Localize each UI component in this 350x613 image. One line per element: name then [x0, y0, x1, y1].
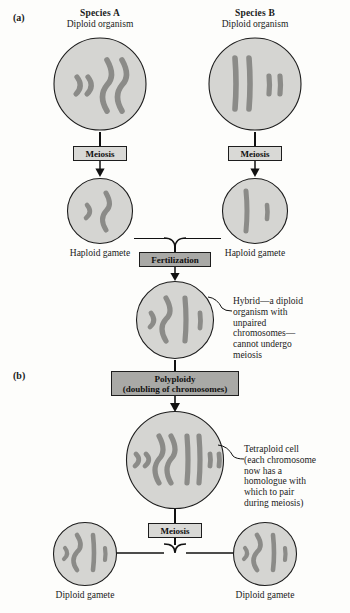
tetraploid-annotation-line-4: homologue with: [244, 476, 350, 487]
haploid-gamete-b-cell: [221, 177, 289, 245]
diploid-gamete-left-caption: Diploid gamete: [35, 590, 135, 601]
haploid-gamete-a-caption: Haploid gamete: [50, 248, 150, 259]
diploid-gamete-right-caption: Diploid gamete: [215, 590, 315, 601]
arrow-meiosis-b-down: [247, 161, 263, 177]
polyploidy-box: Polyploidy (doubling of chromosomes): [111, 371, 239, 396]
cell-membrane: [223, 179, 288, 244]
diploid-gamete-left-cell: [52, 521, 118, 587]
species-b-title: Species B: [192, 8, 318, 19]
cell-membrane: [209, 38, 301, 130]
connector-tetraploid-to-meiosis: [174, 509, 175, 523]
connector-species-b-to-meiosis: [254, 132, 255, 146]
species-b-subtitle: Diploid organism: [192, 19, 318, 30]
connector-gamete-b-to-fertilization: [181, 238, 221, 239]
hybrid-annotation-line-1: Hybrid—a diploid: [233, 296, 345, 307]
tetraploid-annotation-line-2: (each chromosome: [244, 455, 350, 466]
tetraploid-cell: [125, 410, 225, 510]
tetraploid-annotation-line-6: during meiosis): [244, 498, 350, 509]
hybrid-annotation-line-4: chromosomes—: [233, 328, 345, 339]
species-a-heading: Species A Diploid organism: [37, 8, 163, 30]
species-a-subtitle: Diploid organism: [37, 19, 163, 30]
diploid-gamete-right-cell: [232, 521, 298, 587]
connector-species-a-to-meiosis: [99, 132, 100, 146]
panel-letter-b: (b): [13, 370, 25, 381]
tetraploid-annotation: Tetraploid cell (each chromosome now has…: [244, 444, 350, 509]
hybrid-annotation: Hybrid—a diploid organism with unpaired …: [233, 296, 345, 361]
hybrid-annotation-line-6: meiosis: [233, 350, 345, 361]
species-a-title: Species A: [37, 8, 163, 19]
arrow-fertilization-down: [167, 267, 183, 281]
figure-canvas: (a) (b) Species A Diploid organism Speci…: [0, 0, 350, 613]
meiosis-box-a: Meiosis: [73, 146, 127, 161]
arrow-meiosis-a-down: [92, 161, 108, 177]
hybrid-annotation-line-5: cannot undergo: [233, 339, 345, 350]
haploid-gamete-a-cell: [66, 177, 134, 245]
leader-line-hybrid: [208, 296, 232, 312]
tetraploid-annotation-line-5: which to pair: [244, 487, 350, 498]
meiosis-box-final: Meiosis: [148, 523, 202, 538]
connector-hybrid-to-polyploidy: [174, 360, 175, 371]
hybrid-annotation-line-2: organism with: [233, 307, 345, 318]
hybrid-cell: [135, 280, 215, 360]
fertilization-box: Fertilization: [139, 252, 211, 267]
tetraploid-annotation-line-3: now has a: [244, 466, 350, 477]
panel-letter-a: (a): [13, 12, 25, 23]
haploid-gamete-b-caption: Haploid gamete: [205, 248, 305, 259]
leader-line-tetraploid: [218, 444, 244, 460]
cell-membrane: [54, 38, 146, 130]
species-a-parent-cell: [52, 36, 148, 132]
species-b-parent-cell: [207, 36, 303, 132]
hybrid-annotation-line-3: unpaired: [233, 318, 345, 329]
polyploidy-box-line-2: (doubling of chromosomes): [112, 384, 238, 395]
cell-membrane: [68, 179, 133, 244]
tetraploid-annotation-line-1: Tetraploid cell: [244, 444, 350, 455]
meiosis-box-b: Meiosis: [228, 146, 282, 161]
polyploidy-box-line-1: Polyploidy: [112, 374, 238, 385]
species-b-heading: Species B Diploid organism: [192, 8, 318, 30]
